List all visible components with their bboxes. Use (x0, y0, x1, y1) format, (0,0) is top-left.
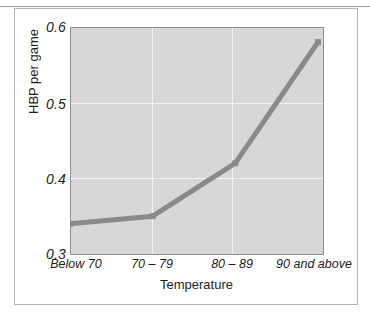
series-line-hbp-per-game (70, 27, 323, 254)
data-point-70-79 (150, 213, 156, 219)
header-divider (0, 6, 370, 7)
x-axis-tick-label-below-70: Below 70 (50, 257, 101, 271)
plot-area (70, 27, 323, 254)
y-axis-title: HBP per game (26, 92, 41, 114)
x-axis-tick-label-90-and-above: 90 and above (276, 257, 352, 271)
data-line (70, 42, 318, 224)
plot-border-left (70, 27, 71, 255)
x-axis-tick-label-70-79: 70 – 79 (131, 257, 173, 271)
x-axis-tick-label-80-89: 80 – 89 (211, 257, 253, 271)
data-point-90-and-above (315, 39, 321, 45)
x-axis-title: Temperature (70, 277, 323, 292)
plot-border-top (70, 27, 324, 28)
y-axis-tick-label-0.4: 0.4 (6, 171, 66, 187)
plot-border-right (323, 27, 324, 255)
plot-border-bottom (70, 254, 324, 255)
chart-figure: 0.6 0.5 0.4 0.3 HBP per game Below 70 70… (0, 0, 370, 315)
data-point-80-89 (232, 160, 238, 166)
